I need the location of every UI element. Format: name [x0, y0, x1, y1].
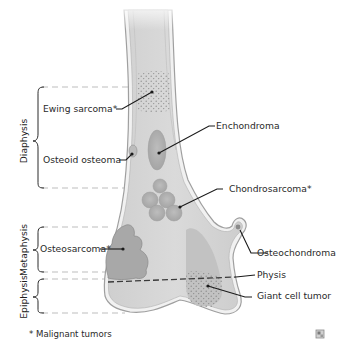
image-enlarge-icon[interactable] — [316, 330, 324, 338]
enchondroma-lesion — [148, 130, 166, 170]
label-physis: Physis — [257, 269, 286, 280]
region-braces — [33, 87, 44, 313]
bone-tumor-diagram: Diaphysis Metaphysis Epiphysis Ewing sar… — [0, 0, 342, 356]
label-enchondroma: Enchondroma — [216, 120, 280, 131]
label-giant-cell-tumor: Giant cell tumor — [257, 290, 331, 301]
label-osteosarcoma: Osteosarcoma* — [40, 243, 111, 254]
label-osteochondroma: Osteochondroma — [257, 247, 336, 258]
region-label-diaphysis: Diaphysis — [18, 119, 29, 164]
region-label-epiphysis: Epiphysis — [18, 275, 29, 319]
footnote-malignant: * Malignant tumors — [29, 329, 112, 339]
label-ewing-sarcoma: Ewing sarcoma* — [43, 103, 118, 114]
label-chondrosarcoma: Chondrosarcoma* — [229, 183, 312, 194]
label-osteoid-osteoma: Osteoid osteoma — [43, 154, 121, 165]
osteochondroma-lesion — [236, 225, 241, 230]
region-label-metaphysis: Metaphysis — [18, 224, 29, 276]
